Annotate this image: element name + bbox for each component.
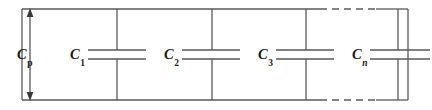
label-cn: Cn bbox=[352, 46, 367, 63]
label-c2-subscript: 2 bbox=[174, 58, 179, 68]
label-c3-subscript: 3 bbox=[268, 58, 273, 68]
label-c1-subscript: 1 bbox=[80, 58, 85, 68]
label-cp-symbol: C bbox=[17, 46, 27, 62]
circuit-diagram: Cp C1 C2 C3 Cn bbox=[0, 0, 432, 110]
circuit-svg bbox=[0, 0, 432, 110]
capacitor-branch-c3 bbox=[276, 9, 334, 100]
capacitor-branch-c1 bbox=[88, 9, 146, 100]
capacitor-branch-c2 bbox=[182, 9, 240, 100]
label-cp-subscript: p bbox=[27, 58, 32, 68]
label-c1: C1 bbox=[70, 46, 84, 63]
capacitor-branch-cn bbox=[370, 9, 430, 100]
label-c3: C3 bbox=[258, 46, 272, 63]
label-cn-subscript: n bbox=[362, 58, 367, 68]
label-cn-symbol: C bbox=[352, 46, 362, 62]
label-cp: Cp bbox=[17, 46, 32, 63]
label-c2: C2 bbox=[164, 46, 178, 63]
label-c2-symbol: C bbox=[164, 46, 174, 62]
label-c1-symbol: C bbox=[70, 46, 80, 62]
label-c3-symbol: C bbox=[258, 46, 268, 62]
